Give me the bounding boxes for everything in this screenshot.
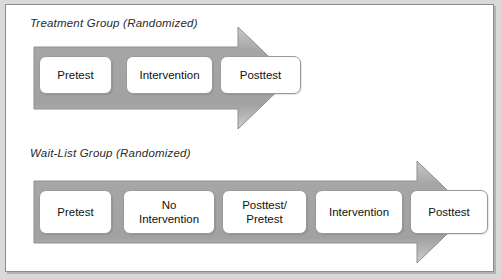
step-label-line2: Intervention — [139, 213, 199, 225]
step-label-line1: Posttest/ — [242, 199, 287, 211]
panel-wait-list-group: Wait-List Group (Randomized) Pretest No … — [6, 135, 493, 273]
step-box-pretest[interactable]: Pretest — [39, 56, 112, 94]
step-row-treatment: Pretest Intervention Posttest — [6, 5, 493, 135]
step-label: Posttest — [238, 68, 284, 82]
step-label: Pretest — [55, 68, 95, 82]
step-box-posttest[interactable]: Posttest — [410, 190, 488, 234]
step-label-line1: No — [162, 199, 177, 211]
step-box-intervention[interactable]: Intervention — [315, 190, 403, 234]
step-label: Pretest — [55, 205, 95, 219]
step-box-intervention[interactable]: Intervention — [126, 56, 213, 94]
step-label: Intervention — [327, 205, 391, 219]
step-label: Intervention — [137, 68, 201, 82]
step-label-line2: Pretest — [246, 213, 282, 225]
step-label: Posttest — [426, 205, 472, 219]
step-box-no-intervention[interactable]: No Intervention — [123, 190, 215, 234]
panel-treatment-group: Treatment Group (Randomized) Pretest Int… — [6, 5, 493, 135]
step-row-waitlist: Pretest No Intervention Posttest/ Pretes… — [6, 135, 493, 273]
step-box-posttest[interactable]: Posttest — [220, 56, 301, 94]
step-box-posttest-pretest[interactable]: Posttest/ Pretest — [222, 190, 307, 234]
diagram-frame: Treatment Group (Randomized) Pretest Int… — [5, 4, 494, 272]
step-label: Posttest/ Pretest — [240, 198, 289, 226]
step-label: No Intervention — [137, 198, 201, 226]
step-box-pretest[interactable]: Pretest — [39, 190, 112, 234]
